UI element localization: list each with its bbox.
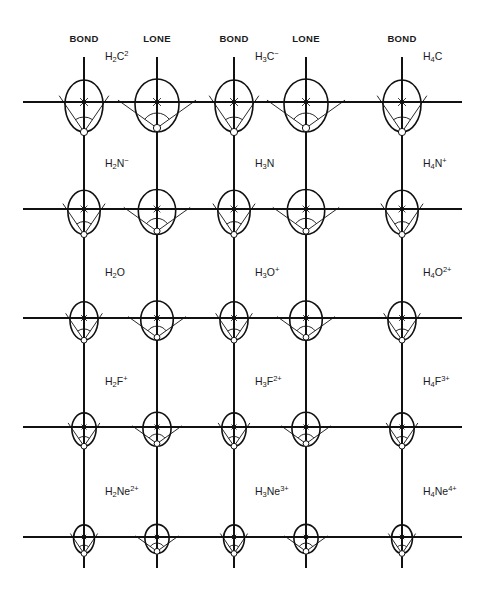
formula-label: H4F3+ [423, 375, 450, 387]
proton-circle [154, 228, 160, 234]
proton-circle [80, 128, 87, 135]
proton-circle [154, 441, 160, 447]
formula-hydrogen: H [255, 485, 263, 497]
proton-circle [231, 231, 237, 237]
formula-charge: 2+ [273, 374, 282, 383]
proton-circle [81, 231, 87, 237]
orbital-diagram [0, 0, 489, 594]
proton-circle [81, 551, 87, 557]
column-header-bond: BOND [387, 33, 416, 44]
centroid-dot [232, 316, 236, 320]
formula-hydrogen: H [255, 157, 263, 169]
centroid-dot [155, 425, 159, 429]
proton-circle [154, 334, 160, 340]
formula-charge: − [274, 49, 278, 58]
centroid-dot [304, 535, 308, 539]
centroid-dot [232, 535, 236, 539]
centroid-dot [400, 100, 404, 104]
column-header-bond: BOND [69, 33, 98, 44]
formula-atom: N [267, 157, 275, 169]
formula-hydrogen: H [105, 266, 113, 278]
formula-charge: − [124, 156, 128, 165]
centroid-dot [232, 425, 236, 429]
formula-label: H4O2+ [423, 266, 452, 278]
formula-label: H2F+ [105, 375, 128, 387]
proton-circle [231, 551, 237, 557]
formula-label: H4C [423, 50, 442, 62]
formula-hydrogen: H [105, 375, 113, 387]
formula-charge: 4+ [448, 484, 457, 493]
formula-label: H4Ne4+ [423, 485, 457, 497]
centroid-dot [400, 316, 404, 320]
centroid-dot [155, 535, 159, 539]
proton-circle [154, 548, 160, 554]
centroid-dot [304, 425, 308, 429]
formula-label: H2Ne2+ [105, 485, 139, 497]
centroid-dot [82, 316, 86, 320]
formula-charge: 2+ [130, 484, 139, 493]
formula-label: H4N+ [423, 157, 447, 169]
formula-label: H3N [255, 157, 274, 169]
proton-circle [399, 231, 405, 237]
formula-hydrogen: H [105, 157, 113, 169]
formula-charge: + [123, 374, 127, 383]
centroid-dot [304, 207, 308, 211]
formula-atom: O [267, 266, 275, 278]
centroid-dot [232, 207, 236, 211]
centroid-dot [82, 425, 86, 429]
proton-circle [230, 128, 237, 135]
formula-hydrogen: H [255, 375, 263, 387]
proton-circle [303, 228, 309, 234]
formula-charge: + [275, 265, 279, 274]
formula-label: H3Ne3+ [255, 485, 289, 497]
formula-charge: 3+ [280, 484, 289, 493]
proton-circle [231, 443, 237, 449]
column-header-bond: BOND [219, 33, 248, 44]
proton-circle [303, 548, 309, 554]
proton-circle [399, 337, 405, 343]
formula-atom: C [435, 50, 443, 62]
centroid-dot [155, 100, 159, 104]
formula-atom: Ne [267, 485, 280, 497]
formula-hydrogen: H [423, 485, 431, 497]
formula-charge: 2+ [443, 265, 452, 274]
formula-label: H2N− [105, 157, 129, 169]
proton-circle [303, 334, 309, 340]
formula-hydrogen: H [105, 485, 113, 497]
proton-circle [302, 124, 309, 131]
centroid-dot [82, 535, 86, 539]
formula-hydrogen: H [105, 50, 113, 62]
formula-label: H3F2+ [255, 375, 282, 387]
proton-circle [81, 337, 87, 343]
proton-circle [399, 443, 405, 449]
formula-charge: + [442, 156, 446, 165]
formula-atom: O [435, 266, 443, 278]
centroid-dot [400, 535, 404, 539]
centroid-dot [232, 100, 236, 104]
formula-hydrogen: H [255, 50, 263, 62]
formula-charge: 2 [124, 49, 128, 58]
formula-atom: Ne [117, 485, 130, 497]
formula-hydrogen: H [423, 50, 431, 62]
formula-hydrogen: H [255, 266, 263, 278]
proton-circle [153, 124, 160, 131]
formula-hydrogen: H [423, 375, 431, 387]
proton-circle [303, 441, 309, 447]
centroid-dot [82, 100, 86, 104]
proton-circle [399, 551, 405, 557]
column-header-lone: LONE [292, 33, 320, 44]
centroid-dot [400, 425, 404, 429]
formula-hydrogen: H [423, 266, 431, 278]
formula-hydrogen: H [423, 157, 431, 169]
formula-label: H2C2 [105, 50, 129, 62]
centroid-dot [155, 316, 159, 320]
centroid-dot [304, 100, 308, 104]
formula-label: H3C− [255, 50, 279, 62]
proton-circle [231, 337, 237, 343]
column-header-lone: LONE [143, 33, 171, 44]
formula-atom: O [117, 266, 125, 278]
centroid-dot [82, 207, 86, 211]
centroid-dot [155, 207, 159, 211]
formula-atom: Ne [435, 485, 448, 497]
proton-circle [398, 128, 405, 135]
